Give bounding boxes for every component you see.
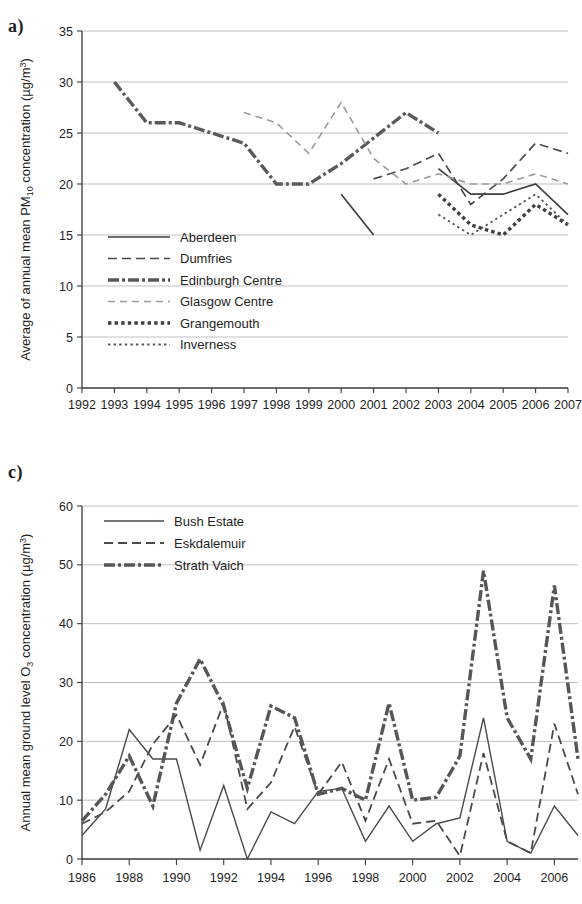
y-axis-title: Average of annual mean PM10 concentratio…	[18, 58, 35, 361]
legend-label-aberdeen: Aberdeen	[180, 230, 236, 245]
x-tick-label: 1996	[304, 871, 332, 885]
chart-panel-c: c) 0102030405060198619881990199219941996…	[0, 452, 582, 904]
x-tick-label: 1986	[68, 871, 96, 885]
chart-c-svg: 0102030405060198619881990199219941996199…	[0, 452, 582, 904]
x-tick-label: 2002	[446, 871, 474, 885]
x-tick-label: 2006	[540, 871, 568, 885]
legend-label-bush-estate: Bush Estate	[174, 514, 244, 529]
chart-a-legend: AberdeenDumfriesEdinburgh CentreGlasgow …	[108, 230, 282, 353]
series-line-strath-vaich	[82, 571, 578, 821]
y-tick-label: 40	[59, 617, 73, 631]
y-tick-label: 0	[66, 853, 73, 867]
x-tick-label: 2006	[522, 398, 550, 412]
x-tick-label: 1992	[210, 871, 238, 885]
x-tick-label: 1988	[115, 871, 143, 885]
x-tick-label: 1994	[133, 398, 161, 412]
y-tick-label: 60	[59, 500, 73, 514]
x-tick-label: 2007	[554, 398, 582, 412]
y-tick-label: 10	[59, 280, 73, 294]
y-tick-label: 20	[59, 178, 73, 192]
legend-label-glasgow-centre: Glasgow Centre	[180, 294, 273, 309]
x-tick-label: 2000	[327, 398, 355, 412]
y-tick-label: 35	[59, 25, 73, 39]
legend-label-strath-vaich: Strath Vaich	[174, 558, 244, 573]
x-tick-label: 2001	[360, 398, 388, 412]
y-tick-label: 30	[59, 676, 73, 690]
legend-label-eskdalemuir: Eskdalemuir	[174, 536, 246, 551]
x-tick-label: 1994	[257, 871, 285, 885]
legend-label-grangemouth: Grangemouth	[180, 316, 260, 331]
chart-c-legend: Bush EstateEskdalemuirStrath Vaich	[104, 514, 246, 573]
x-tick-label: 1996	[198, 398, 226, 412]
y-axis-title: Annual mean ground level O3 concentratio…	[18, 534, 35, 832]
legend-label-dumfries: Dumfries	[180, 251, 233, 266]
x-tick-label: 1999	[295, 398, 323, 412]
x-tick-label: 2002	[392, 398, 420, 412]
y-tick-label: 30	[59, 76, 73, 90]
x-tick-label: 2004	[493, 871, 521, 885]
y-tick-label: 25	[59, 127, 73, 141]
y-tick-label: 20	[59, 735, 73, 749]
x-tick-label: 1997	[230, 398, 258, 412]
series-line-aberdeen	[438, 169, 568, 215]
x-tick-label: 1992	[68, 398, 96, 412]
x-tick-label: 1998	[262, 398, 290, 412]
x-tick-label: 1998	[352, 871, 380, 885]
legend-label-edinburgh-centre: Edinburgh Centre	[180, 273, 282, 288]
x-tick-label: 1993	[100, 398, 128, 412]
series-line-eskdalemuir	[82, 703, 578, 856]
y-tick-label: 5	[66, 331, 73, 345]
y-tick-label: 50	[59, 558, 73, 572]
series-line-aberdeen	[341, 194, 373, 235]
x-tick-label: 2003	[424, 398, 452, 412]
y-tick-label: 0	[66, 382, 73, 396]
chart-panel-a: a) 0510152025303519921993199419951996199…	[0, 0, 582, 452]
y-tick-label: 15	[59, 229, 73, 243]
y-tick-label: 10	[59, 794, 73, 808]
legend-label-inverness: Inverness	[180, 337, 237, 352]
x-tick-label: 1995	[165, 398, 193, 412]
series-line-dumfries	[374, 143, 568, 204]
x-tick-label: 2005	[489, 398, 517, 412]
series-line-grangemouth	[438, 194, 568, 235]
x-tick-label: 1990	[163, 871, 191, 885]
chart-a-svg: 0510152025303519921993199419951996199719…	[0, 0, 582, 452]
x-tick-label: 2004	[457, 398, 485, 412]
x-tick-label: 2000	[399, 871, 427, 885]
